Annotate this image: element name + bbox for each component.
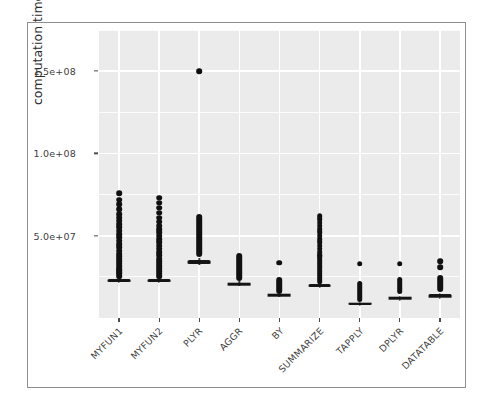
x-axis-tick-mark: [279, 318, 280, 322]
boxplot-group: [139, 30, 179, 318]
outlier-point: [437, 258, 443, 264]
x-axis-tick-mark: [239, 318, 240, 322]
plot-panel: [99, 30, 460, 318]
boxplot-group: [380, 30, 420, 318]
outlier-point: [357, 261, 363, 267]
x-axis-tick-labels: MYFUN1MYFUN2PLYRAGGRBYSUMMARIZETAPPLYDPL…: [99, 318, 460, 388]
median-line: [388, 297, 411, 300]
outlier-point: [156, 205, 162, 211]
outlier-point: [116, 207, 122, 213]
outlier-cluster: [277, 277, 283, 294]
outlier-point: [116, 197, 122, 203]
x-axis-tick-mark: [359, 318, 360, 322]
whisker-lower: [319, 287, 320, 288]
median-line: [228, 283, 251, 286]
outlier-point: [156, 215, 162, 221]
y-axis-tick-mark: [94, 235, 98, 236]
median-line: [188, 261, 211, 264]
median-line: [268, 294, 291, 297]
boxplot-group: [420, 30, 460, 318]
x-axis-tick-mark: [399, 318, 400, 322]
outlier-point: [156, 210, 162, 216]
outlier-cluster: [397, 277, 403, 294]
x-axis-tick-mark: [118, 318, 119, 322]
y-axis-tick-label: 5.0e+07: [34, 230, 76, 241]
outlier-point: [317, 213, 323, 219]
y-axis-tick-labels: 5.0e+071.0e+081.5e+08: [0, 30, 88, 318]
boxplot-group: [340, 30, 380, 318]
outlier-point: [156, 195, 162, 201]
x-axis-tick-mark: [319, 318, 320, 322]
median-line: [429, 295, 452, 298]
boxplot-group: [179, 30, 219, 318]
boxplot-group: [300, 30, 340, 318]
boxplot-figure: computation time 5.0e+071.0e+081.5e+08 M…: [0, 0, 493, 411]
median-line: [108, 280, 131, 283]
outlier-point: [196, 68, 202, 74]
outlier-point: [116, 212, 122, 218]
outlier-cluster: [357, 281, 363, 301]
y-axis-tick-label: 1.5e+08: [34, 66, 76, 77]
y-axis-tick-mark: [94, 153, 98, 154]
whisker-lower: [239, 285, 240, 286]
outlier-cluster: [437, 275, 443, 292]
whisker-lower: [199, 264, 200, 266]
outlier-cluster: [196, 214, 202, 257]
median-line: [308, 284, 331, 287]
outlier-point: [116, 190, 122, 196]
x-axis-tick-mark: [159, 318, 160, 322]
x-axis-tick-mark: [199, 318, 200, 322]
x-axis-tick-mark: [439, 318, 440, 322]
median-line: [148, 280, 171, 283]
y-axis-tick-mark: [94, 70, 98, 71]
outlier-cluster: [237, 253, 243, 281]
boxplot-group: [219, 30, 259, 318]
boxplot-group: [259, 30, 299, 318]
y-axis-tick-label: 1.0e+08: [34, 148, 76, 159]
boxplot-group: [99, 30, 139, 318]
outlier-point: [156, 200, 162, 206]
outlier-point: [277, 260, 283, 266]
outlier-point: [397, 261, 403, 267]
median-line: [348, 302, 371, 305]
outlier-point: [116, 202, 122, 208]
outlier-point: [437, 264, 443, 270]
